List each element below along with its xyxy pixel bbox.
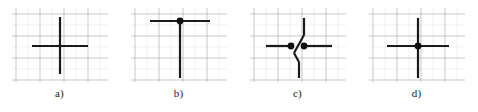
jog-diagonal-lower [294,53,299,62]
panel-b-label: b) [119,86,238,100]
panel-a-junction-glyph [12,8,108,82]
panel-d-plot [369,8,465,82]
panel-d: d) [357,0,476,112]
panel-c-plot [250,8,346,82]
panel-a-plot [12,8,108,82]
panel-c: c) [238,0,357,112]
panel-d-label: d) [357,86,476,100]
left-junction-dot [288,43,295,50]
panel-a-label: a) [0,86,119,100]
panel-a: a) [0,0,119,112]
panel-c-label: c) [238,86,357,100]
panel-b-plot [131,8,227,82]
right-junction-dot [301,43,308,50]
figure-container: a)b)c)d) [0,0,478,112]
panel-b: b) [119,0,238,112]
junction-dot [415,43,422,50]
junction-dot [177,18,184,25]
panel-c-junction-glyph [250,8,346,82]
panel-b-junction-glyph [131,8,227,82]
panel-d-junction-glyph [369,8,465,82]
